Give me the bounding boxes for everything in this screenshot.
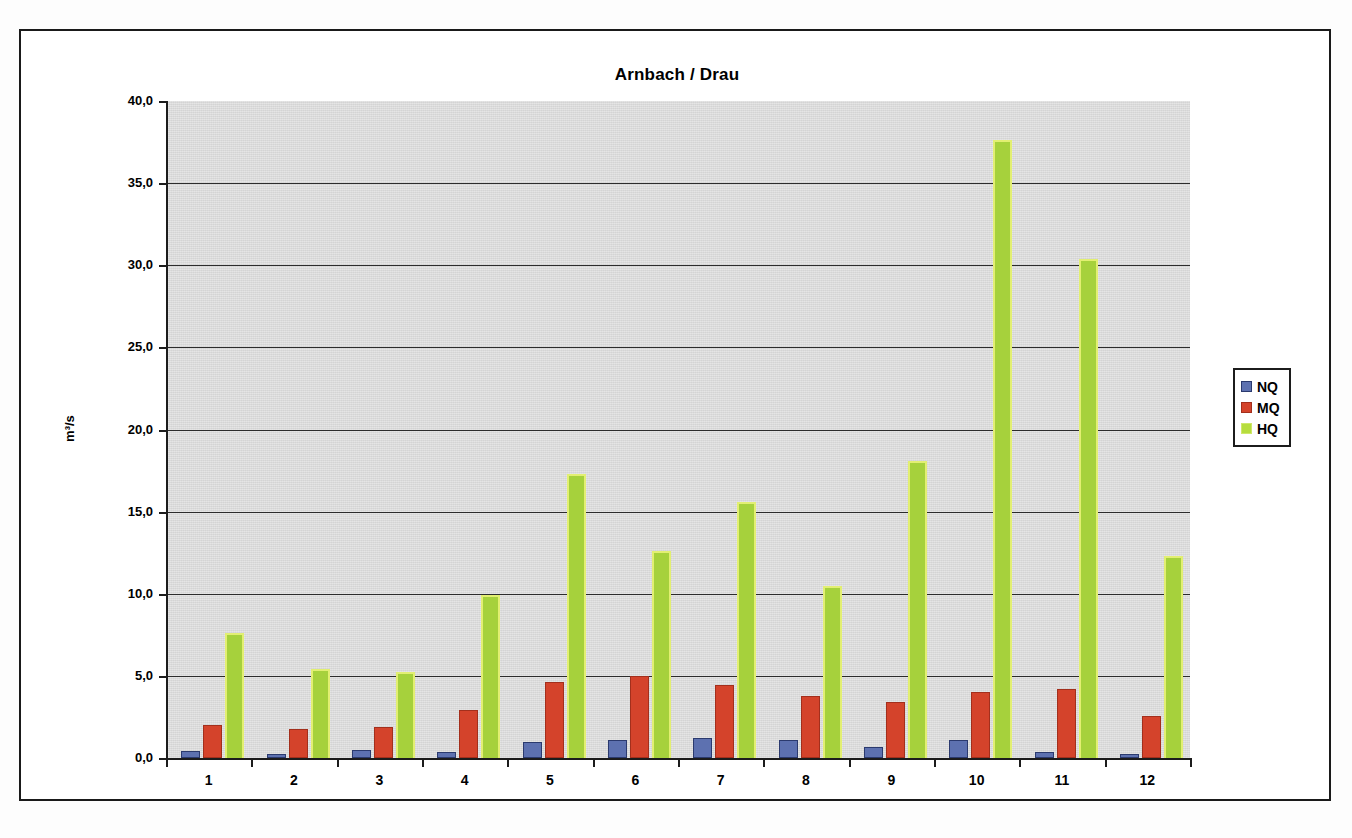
x-axis-tick-label: 4 (445, 772, 485, 788)
y-axis-tick-mark (159, 347, 166, 349)
bar-mq-month-11 (1057, 689, 1076, 758)
y-axis-tick-mark (159, 594, 166, 596)
y-axis-tick-labels: 40,035,030,025,020,015,010,05,00,0 (93, 31, 153, 803)
chart-legend: NQMQHQ (1233, 368, 1291, 447)
x-axis-tick-mark (593, 759, 595, 767)
month-bar-group (181, 101, 244, 758)
bar-hq-month-1 (225, 633, 244, 758)
chart-frame: Arnbach / Drau m³/s 40,035,030,025,020,0… (19, 29, 1331, 801)
month-bar-group (1120, 101, 1183, 758)
bar-mq-month-10 (971, 692, 990, 758)
x-axis-tick-mark (763, 759, 765, 767)
bar-nq-month-10 (949, 740, 968, 758)
x-axis-tick-mark (337, 759, 339, 767)
bar-hq-month-8 (823, 586, 842, 758)
y-axis-tick-label: 15,0 (103, 504, 153, 519)
y-axis-tick-label: 0,0 (103, 750, 153, 765)
bar-nq-month-5 (523, 742, 542, 758)
bar-hq-month-3 (396, 672, 415, 758)
y-axis-tick-mark (159, 676, 166, 678)
legend-item-nq: NQ (1241, 376, 1280, 397)
x-axis-tick-mark (507, 759, 509, 767)
bar-mq-month-12 (1142, 716, 1161, 758)
bar-nq-month-8 (779, 740, 798, 758)
bar-hq-month-12 (1164, 556, 1183, 758)
y-axis-title: m³/s (62, 369, 77, 489)
y-axis-tick-label: 35,0 (103, 175, 153, 190)
month-bar-group (864, 101, 927, 758)
month-bar-group (693, 101, 756, 758)
x-axis-tick-label: 2 (274, 772, 314, 788)
month-bar-group (437, 101, 500, 758)
bar-hq-month-9 (908, 461, 927, 758)
y-axis-tick-mark (159, 265, 166, 267)
bar-hq-month-10 (993, 140, 1012, 758)
x-axis-tick-label: 8 (786, 772, 826, 788)
x-axis-tick-label: 7 (701, 772, 741, 788)
month-bar-group (523, 101, 586, 758)
legend-item-hq: HQ (1241, 418, 1280, 439)
x-axis-tick-label: 9 (871, 772, 911, 788)
x-axis-tick-mark (1105, 759, 1107, 767)
legend-swatch-hq-icon (1241, 423, 1252, 434)
x-axis-tick-label: 12 (1127, 772, 1167, 788)
legend-item-mq: MQ (1241, 397, 1280, 418)
x-axis-tick-mark (251, 759, 253, 767)
y-axis-tick-label: 20,0 (103, 422, 153, 437)
legend-swatch-mq-icon (1241, 402, 1252, 413)
bar-nq-month-9 (864, 747, 883, 758)
bar-mq-month-8 (801, 696, 820, 758)
bar-mq-month-4 (459, 710, 478, 758)
x-axis-tick-mark (849, 759, 851, 767)
x-axis-tick-label: 3 (359, 772, 399, 788)
y-axis-tick-label: 10,0 (103, 586, 153, 601)
month-bar-group (352, 101, 415, 758)
month-bar-group (267, 101, 330, 758)
x-axis-tick-label: 6 (615, 772, 655, 788)
bar-nq-month-6 (608, 740, 627, 758)
bar-nq-month-7 (693, 738, 712, 758)
x-axis-tick-mark (1190, 759, 1192, 767)
bar-mq-month-1 (203, 725, 222, 758)
month-bar-group (608, 101, 671, 758)
y-axis-tick-label: 30,0 (103, 257, 153, 272)
y-axis-tick-label: 5,0 (103, 668, 153, 683)
bar-mq-month-2 (289, 729, 308, 758)
legend-swatch-nq-icon (1241, 381, 1252, 392)
month-bar-group (779, 101, 842, 758)
bar-hq-month-5 (567, 474, 586, 758)
bar-mq-month-5 (545, 682, 564, 758)
y-axis-tick-mark (159, 430, 166, 432)
legend-label: MQ (1257, 401, 1280, 415)
bar-mq-month-9 (886, 702, 905, 758)
x-axis-tick-mark (422, 759, 424, 767)
y-axis-tick-mark (159, 512, 166, 514)
month-bar-group (1035, 101, 1098, 758)
y-axis-tick-label: 40,0 (103, 93, 153, 108)
y-axis-line (166, 101, 168, 759)
plot-area (166, 101, 1190, 758)
x-axis-tick-mark (1019, 759, 1021, 767)
x-axis-tick-label: 10 (957, 772, 997, 788)
x-axis-tick-label: 11 (1042, 772, 1082, 788)
bar-nq-month-3 (352, 750, 371, 758)
x-axis-tick-mark (678, 759, 680, 767)
bar-hq-month-2 (311, 669, 330, 758)
bar-hq-month-4 (481, 595, 500, 758)
bar-hq-month-6 (652, 551, 671, 758)
y-axis-tick-mark (159, 758, 166, 760)
x-axis-tick-label: 5 (530, 772, 570, 788)
y-axis-tick-mark (159, 183, 166, 185)
x-axis-tick-mark (166, 759, 168, 767)
chart-title: Arnbach / Drau (21, 65, 1333, 85)
legend-label: HQ (1257, 422, 1278, 436)
y-axis-tick-label: 25,0 (103, 339, 153, 354)
bar-mq-month-6 (630, 676, 649, 758)
bar-hq-month-7 (737, 502, 756, 758)
x-axis-tick-label: 1 (189, 772, 229, 788)
y-axis-tick-mark (159, 101, 166, 103)
bar-mq-month-3 (374, 727, 393, 758)
bar-mq-month-7 (715, 685, 734, 758)
legend-label: NQ (1257, 380, 1278, 394)
x-axis-tick-mark (934, 759, 936, 767)
